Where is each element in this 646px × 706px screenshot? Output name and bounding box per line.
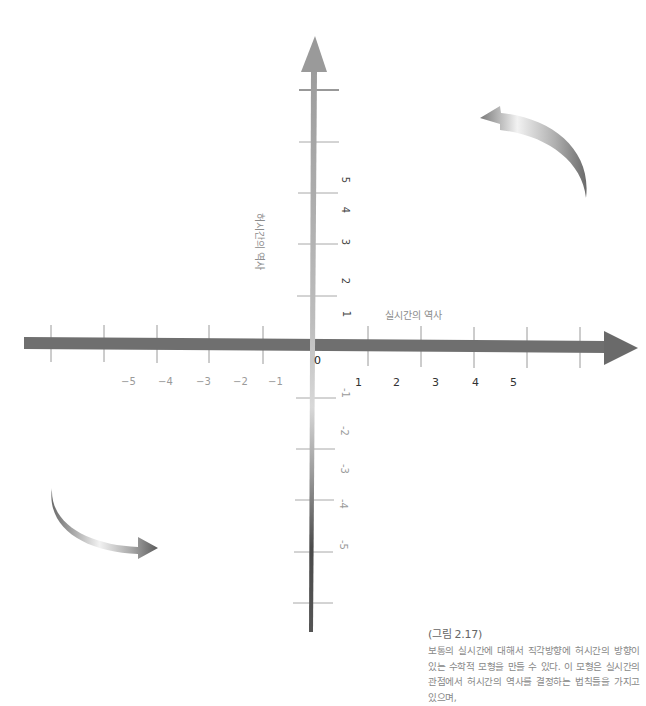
imaginary-time-diagram: −5 −4 −3 −2 −1 1 2 3 4 5 0 실시간의 역사 허시간의 … xyxy=(0,0,646,706)
v-tick-label-1: 1 xyxy=(341,311,351,317)
v-tick-label-3: 3 xyxy=(340,239,350,245)
h-tick-label-neg5: −5 xyxy=(121,377,136,387)
v-tick-label-neg4: -4 xyxy=(338,499,348,509)
h-tick-label-5: 5 xyxy=(510,377,517,388)
caption-body: 보통의 실시간에 대해서 직각방향에 허시간의 방향이 있는 수학적 모형을 만… xyxy=(428,643,640,705)
v-tick-label-neg5: -5 xyxy=(338,540,348,550)
vertical-axis-title: 허시간의 역사 xyxy=(253,213,268,270)
h-tick-label-neg1: −1 xyxy=(268,377,283,387)
v-tick-label-neg1: -1 xyxy=(340,388,350,398)
v-tick-label-4: 4 xyxy=(340,207,350,213)
caption-title: (그림 2.17) xyxy=(428,625,640,641)
v-tick-label-neg2: -2 xyxy=(339,426,349,436)
h-tick-label-4: 4 xyxy=(472,377,479,388)
horizontal-axis-title: 실시간의 역사 xyxy=(385,307,442,322)
h-tick-label-neg4: −4 xyxy=(158,377,173,387)
h-tick-label-3: 3 xyxy=(432,377,439,388)
v-tick-label-5: 5 xyxy=(340,177,350,183)
curved-arrow-upper-right xyxy=(480,106,587,198)
v-tick-label-neg3: -3 xyxy=(339,464,349,474)
horizontal-axis-arrow xyxy=(24,331,638,365)
h-tick-label-neg3: −3 xyxy=(196,377,211,387)
h-tick-label-2: 2 xyxy=(393,377,400,388)
figure-caption: (그림 2.17) 보통의 실시간에 대해서 직각방향에 허시간의 방향이 있는… xyxy=(428,625,640,705)
vertical-axis-arrow xyxy=(301,36,327,632)
origin-label: 0 xyxy=(314,354,321,367)
h-tick-label-neg2: −2 xyxy=(233,377,248,387)
h-tick-label-1: 1 xyxy=(355,377,362,388)
axes-graphic xyxy=(0,0,646,706)
v-tick-label-2: 2 xyxy=(340,278,350,284)
curved-arrow-lower-left xyxy=(51,488,158,559)
